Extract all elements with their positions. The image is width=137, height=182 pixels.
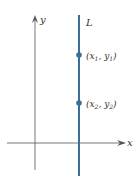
y-axis-label: y bbox=[39, 14, 46, 25]
vertical-line-diagram: y x L (x1, y1) (x2, y2) bbox=[0, 0, 137, 182]
x-axis-label: x bbox=[127, 137, 133, 148]
point-2 bbox=[76, 100, 82, 106]
point-2-label: (x2, y2) bbox=[86, 99, 117, 110]
line-L-label: L bbox=[85, 17, 93, 28]
point-1 bbox=[76, 52, 82, 58]
point-1-label: (x1, y1) bbox=[86, 51, 117, 62]
